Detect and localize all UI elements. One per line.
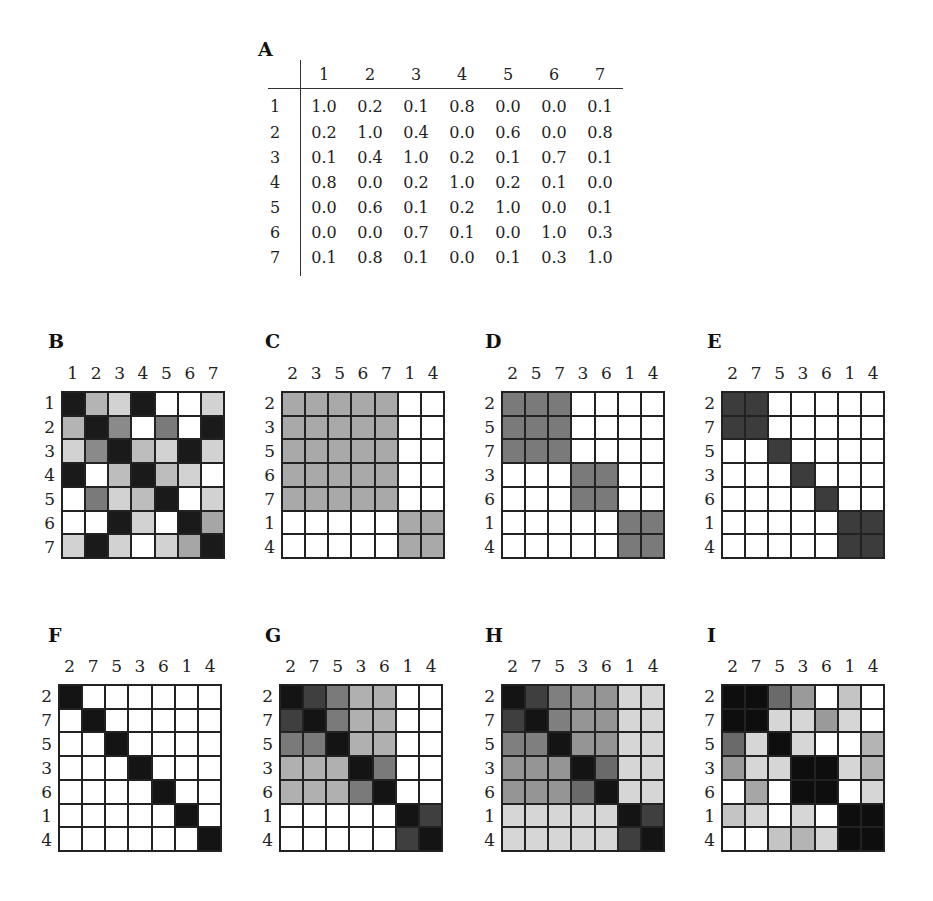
heatmap-cell	[838, 827, 861, 851]
heatmap-cell	[305, 463, 328, 487]
row-label: 4	[697, 828, 715, 852]
row-label: 7	[257, 487, 275, 511]
heatmap-cell	[595, 534, 618, 558]
heatmap-cell	[838, 439, 861, 463]
heatmap-cell	[105, 780, 128, 804]
table-column-header: 7	[577, 60, 623, 89]
heatmap-cell	[152, 780, 175, 804]
column-label: 2	[721, 656, 744, 676]
heatmap-cell	[768, 804, 791, 828]
table-cell: 0.1	[393, 89, 439, 121]
heatmap-cell	[303, 709, 326, 733]
heatmap-cell	[178, 534, 201, 558]
heatmap-cell	[791, 416, 814, 440]
heatmap-cell	[349, 827, 372, 851]
heatmap-cell	[768, 685, 791, 709]
heatmap-grid	[61, 391, 225, 559]
table-cell: 0.6	[485, 120, 531, 145]
column-label: 2	[501, 363, 524, 383]
heatmap-cell	[768, 487, 791, 511]
column-label: 4	[642, 363, 665, 383]
heatmap-cell	[745, 685, 768, 709]
heatmap-cell	[105, 827, 128, 851]
heatmap-cell	[178, 511, 201, 535]
table-cell: 0.0	[439, 120, 485, 145]
heatmap-cell	[175, 780, 198, 804]
heatmap-cell	[152, 709, 175, 733]
table-cell: 0.0	[347, 170, 393, 195]
column-label: 4	[642, 656, 665, 676]
heatmap-cell	[815, 804, 838, 828]
column-label: 2	[501, 656, 524, 676]
heatmap-grid	[58, 684, 222, 852]
heatmap-cell	[396, 827, 419, 851]
heatmap-cell	[525, 709, 548, 733]
heatmap-cell	[861, 709, 884, 733]
heatmap-cell	[745, 439, 768, 463]
heatmap-cell	[791, 685, 814, 709]
table-row-header: 4	[268, 170, 301, 195]
column-label: 6	[815, 363, 838, 383]
row-labels: 2753614	[477, 684, 495, 852]
heatmap-cell	[326, 756, 349, 780]
heatmap-cell	[373, 732, 396, 756]
heatmap-cell	[375, 392, 398, 416]
heatmap-cell	[502, 732, 525, 756]
heatmap-cell	[571, 463, 594, 487]
table-cell: 1.0	[347, 120, 393, 145]
heatmap-cell	[791, 534, 814, 558]
heatmap-cell	[745, 804, 768, 828]
heatmap-cell	[62, 534, 85, 558]
column-label: 2	[58, 656, 81, 676]
table-cell: 0.0	[531, 120, 577, 145]
column-labels: 2753614	[721, 363, 885, 383]
heatmap-cell	[618, 487, 641, 511]
row-label: 6	[697, 780, 715, 804]
column-labels: 2753614	[721, 656, 885, 676]
heatmap-cell	[303, 685, 326, 709]
table-cell: 0.2	[393, 170, 439, 195]
heatmap-cell	[175, 732, 198, 756]
heatmap-cell	[838, 487, 861, 511]
heatmap-cell	[838, 804, 861, 828]
heatmap-cell	[571, 511, 594, 535]
heatmap-cell	[82, 756, 105, 780]
heatmap-grid	[281, 391, 445, 559]
row-labels: 2753614	[34, 684, 52, 852]
heatmap-cell	[525, 756, 548, 780]
row-label: 3	[697, 756, 715, 780]
heatmap-cell	[571, 487, 594, 511]
heatmap-cell	[375, 416, 398, 440]
table-cell: 0.8	[439, 89, 485, 121]
heatmap-cell	[175, 804, 198, 828]
heatmap-cell	[108, 511, 131, 535]
heatmap-cell	[502, 534, 525, 558]
heatmap-cell	[328, 416, 351, 440]
heatmap-cell	[595, 463, 618, 487]
heatmap-cell	[861, 439, 884, 463]
heatmap-cell	[421, 463, 444, 487]
heatmap-cell	[502, 827, 525, 851]
heatmap-cell	[722, 511, 745, 535]
heatmap-cell	[861, 780, 884, 804]
table-cell: 0.1	[577, 195, 623, 220]
heatmap-cell	[128, 685, 151, 709]
heatmap-cell	[305, 392, 328, 416]
heatmap-cell	[838, 756, 861, 780]
row-label: 4	[34, 828, 52, 852]
heatmap-cell	[419, 756, 442, 780]
heatmap-cell	[85, 463, 108, 487]
heatmap-cell	[745, 732, 768, 756]
heatmap-cell	[152, 685, 175, 709]
table-cell: 0.2	[485, 170, 531, 195]
heatmap-cell	[595, 709, 618, 733]
heatmap-cell	[571, 756, 594, 780]
heatmap-cell	[326, 804, 349, 828]
heatmap-cell	[595, 439, 618, 463]
heatmap-cell	[351, 416, 374, 440]
heatmap-cell	[328, 511, 351, 535]
table-column-header: 6	[531, 60, 577, 89]
heatmap-cell	[502, 685, 525, 709]
column-label: 1	[618, 656, 641, 676]
heatmap-cell	[108, 463, 131, 487]
